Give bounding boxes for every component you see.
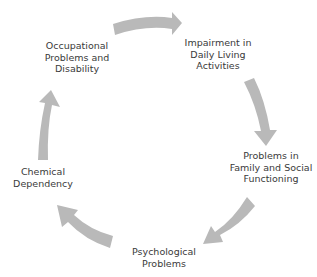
node-label-line: Functioning — [230, 173, 313, 185]
node-label-line: Impairment in — [185, 37, 252, 49]
arrow-psychological-to-chemical — [57, 205, 113, 248]
node-label-line: Problems and — [45, 52, 110, 64]
node-label-line: Chemical — [13, 166, 73, 178]
arrow-occupational-to-impairment — [113, 12, 182, 35]
node-label-line: Occupational — [45, 40, 110, 52]
node-impairment-daily-living: Impairment in Daily Living Activities — [185, 37, 252, 72]
node-psychological-problems: Psychological Problems — [132, 246, 196, 269]
node-label-line: Activities — [185, 60, 252, 72]
node-label-line: Disability — [45, 63, 110, 75]
node-label-line: Daily Living — [185, 49, 252, 61]
node-label-line: Dependency — [13, 178, 73, 190]
node-chemical-dependency: Chemical Dependency — [13, 166, 73, 189]
arrow-impairment-to-family — [244, 78, 277, 146]
node-family-social-functioning: Problems in Family and Social Functionin… — [230, 150, 313, 185]
node-occupational-disability: Occupational Problems and Disability — [45, 40, 110, 75]
node-label-line: Family and Social — [230, 162, 313, 174]
node-label-line: Problems — [132, 258, 196, 270]
arrow-family-to-psychological — [203, 197, 255, 244]
node-label-line: Psychological — [132, 246, 196, 258]
node-label-line: Problems in — [230, 150, 313, 162]
arrow-chemical-to-occupational — [38, 90, 60, 160]
